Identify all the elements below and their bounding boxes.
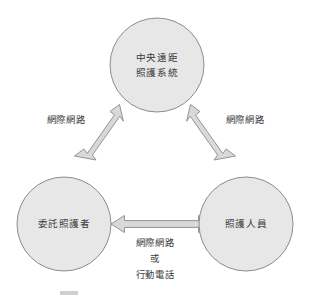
- double-arrow-bottom-icon: [111, 216, 212, 233]
- node-circle-central-telecare-system[interactable]: [110, 18, 204, 112]
- node-label-care-personnel: 照護人員: [225, 218, 267, 229]
- figure-caption-strip: [0, 285, 310, 298]
- edge-bottom-arrow: [111, 216, 212, 233]
- edge-right-label: 網際網路: [226, 114, 265, 125]
- node-label-central-telecare-system-line1: 中央遠距: [136, 52, 178, 63]
- edge-bottom-label-line2: 或: [150, 253, 160, 264]
- edge-left-label-line1: 網際網路: [47, 114, 86, 125]
- node-care-personnel[interactable]: 照護人員: [199, 177, 293, 271]
- edge-right-label-line1: 網際網路: [226, 114, 265, 125]
- diagram-canvas: 中央遠距 照護系統 委託照護者 照護人員 網際網路 網際網路 網際網路 或 行動…: [0, 0, 310, 298]
- node-central-telecare-system[interactable]: 中央遠距 照護系統: [110, 18, 204, 112]
- edge-bottom-label: 網際網路 或 行動電話: [136, 237, 175, 280]
- edge-left-label: 網際網路: [47, 114, 86, 125]
- edge-bottom-label-line3: 行動電話: [136, 269, 174, 280]
- telecare-architecture-diagram: 中央遠距 照護系統 委託照護者 照護人員 網際網路 網際網路 網際網路 或 行動…: [0, 0, 310, 298]
- node-label-commissioned-caregiver: 委託照護者: [38, 218, 91, 229]
- caption-swatch: [60, 291, 78, 295]
- node-label-central-telecare-system-line2: 照護系統: [136, 67, 178, 78]
- edge-bottom-label-line1: 網際網路: [136, 237, 175, 248]
- node-commissioned-caregiver[interactable]: 委託照護者: [17, 177, 111, 271]
